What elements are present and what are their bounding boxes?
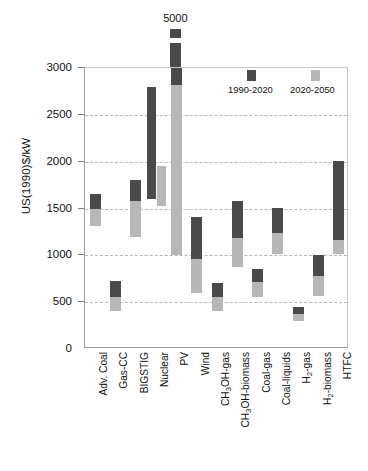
bar-segment-late	[333, 240, 344, 255]
y-tick-label-1000: 1000	[12, 248, 72, 260]
x-tick-label-adv-coal: Adv. Coal	[98, 352, 109, 395]
x-tick-label-h2-biomass: H2-biomass	[322, 352, 333, 405]
x-tick-label-coal-gas: Coal-gas	[261, 352, 272, 393]
plot-inner	[85, 68, 347, 347]
x-tick-label-pv: PV	[179, 352, 190, 366]
plot-area	[84, 67, 348, 348]
bar-overflow-stub	[170, 43, 181, 67]
y-tick-label-2000: 2000	[12, 155, 72, 167]
x-tick-label-ch3oh-gas: CH3OH-gas	[220, 352, 231, 406]
x-tick-label-htfc: HTFC	[342, 352, 353, 379]
bar-overflow-cap-marker	[170, 29, 181, 38]
x-tick-label-ch3oh-biomass: CH3OH-biomass	[240, 352, 251, 428]
x-tick-label-coal-liquids: Coal-liquids	[281, 352, 292, 405]
x-tick-label-nuclear: Nuclear	[159, 352, 170, 387]
x-tick-label-h2-gas: H2-gas	[301, 352, 312, 383]
x-tick-label-bigstig: BIGSTIG	[139, 352, 150, 393]
y-tick-label-500: 500	[12, 295, 72, 307]
legend-swatch-2020-2050	[311, 70, 320, 81]
y-tick-label-1500: 1500	[12, 202, 72, 214]
x-tick-label-wind: Wind	[200, 352, 211, 375]
bar-segment-early	[333, 161, 344, 240]
legend-swatch-1990-2020	[247, 70, 256, 81]
y-tick-label-3000: 3000	[12, 61, 72, 73]
bar-htfc	[85, 68, 347, 347]
y-tick-label-2500: 2500	[12, 108, 72, 120]
chart-figure: US(1990)$/kW 050010001500200025003000 50…	[0, 0, 368, 471]
x-tick-label-gas-cc: Gas-CC	[118, 352, 129, 389]
legend-label-1990-2020: 1990-2020	[228, 84, 273, 95]
annotation-5000: 5000	[163, 12, 187, 24]
x-axis-tick-labels: Adv. CoalGas-CCBIGSTIGNuclearPVWindCH3OH…	[84, 350, 348, 468]
y-tick-label-0: 0	[12, 342, 72, 354]
y-axis-title: US(1990)$/kW	[20, 106, 32, 246]
chart-legend: 1990-2020 2020-2050	[228, 70, 348, 102]
legend-label-2020-2050: 2020-2050	[290, 84, 335, 95]
